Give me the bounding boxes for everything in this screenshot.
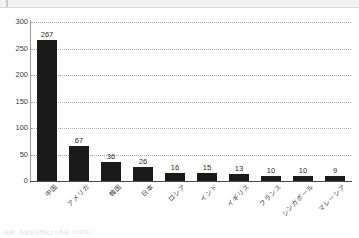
bar-value-label: 9 bbox=[333, 166, 337, 175]
x-category-label: 中国 bbox=[44, 183, 59, 198]
y-tick-label: 200 bbox=[0, 71, 28, 79]
y-tick-label: 50 bbox=[0, 151, 28, 159]
x-axis-line bbox=[30, 181, 352, 182]
bar-value-label: 67 bbox=[75, 136, 83, 145]
bar-column[interactable]: 10 bbox=[293, 22, 312, 181]
bar-value-label: 10 bbox=[299, 166, 307, 175]
bar-value-label: 36 bbox=[107, 152, 115, 161]
bar-chart: 300250200150100500 26767362616151310109 … bbox=[0, 7, 359, 238]
bar-column[interactable]: 13 bbox=[229, 22, 248, 181]
bar-value-label: 267 bbox=[41, 30, 54, 39]
x-category-label: アメリカ bbox=[66, 183, 91, 208]
bar-column[interactable]: 36 bbox=[101, 22, 120, 181]
y-tick-label: 0 bbox=[0, 177, 28, 185]
y-axis-tick-labels: 300250200150100500 bbox=[0, 22, 28, 181]
bar[interactable] bbox=[69, 146, 88, 182]
bar[interactable] bbox=[229, 174, 248, 181]
bar-value-label: 10 bbox=[267, 166, 275, 175]
x-category-label: ロシア bbox=[167, 183, 187, 203]
y-tick-label: 150 bbox=[0, 98, 28, 106]
x-category-label: 日本 bbox=[140, 183, 155, 198]
bar[interactable] bbox=[37, 40, 56, 182]
x-axis-category-labels: 中国アメリカ韓国日本ロシアインドイギリスフランスシンガポールマレーシア bbox=[31, 183, 351, 225]
y-tick-label: 300 bbox=[0, 18, 28, 26]
bar-column[interactable]: 10 bbox=[261, 22, 280, 181]
bar-value-label: 13 bbox=[235, 164, 243, 173]
bar[interactable] bbox=[197, 173, 216, 181]
x-category-label: 韓国 bbox=[108, 183, 123, 198]
x-category-label: シンガポール bbox=[280, 183, 315, 218]
x-category-label: マレーシア bbox=[317, 183, 347, 213]
bar[interactable] bbox=[133, 167, 152, 181]
bar[interactable] bbox=[101, 162, 120, 181]
bar[interactable] bbox=[325, 176, 344, 181]
bar-value-label: 15 bbox=[203, 163, 211, 172]
bar-column[interactable]: 26 bbox=[133, 22, 152, 181]
bar-value-label: 16 bbox=[171, 163, 179, 172]
bar-series: 26767362616151310109 bbox=[31, 22, 351, 181]
bar-column[interactable]: 15 bbox=[197, 22, 216, 181]
bar-value-label: 26 bbox=[139, 157, 147, 166]
bar-column[interactable]: 267 bbox=[37, 22, 56, 181]
bar-column[interactable]: 67 bbox=[69, 22, 88, 181]
footnote-text: 出典：各国統計資料より作成（2020年） bbox=[4, 229, 356, 238]
x-category-label: インド bbox=[199, 183, 219, 203]
y-tick-label: 100 bbox=[0, 124, 28, 132]
x-category-label: イギリス bbox=[226, 183, 251, 208]
bar-column[interactable]: 16 bbox=[165, 22, 184, 181]
x-category-label: フランス bbox=[258, 183, 283, 208]
top-border-tick bbox=[6, 0, 8, 7]
bar[interactable] bbox=[165, 173, 184, 181]
bar[interactable] bbox=[261, 176, 280, 181]
bar[interactable] bbox=[293, 176, 312, 181]
y-tick-label: 250 bbox=[0, 45, 28, 53]
bar-column[interactable]: 9 bbox=[325, 22, 344, 181]
